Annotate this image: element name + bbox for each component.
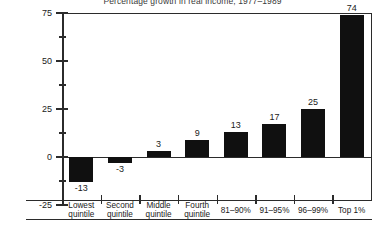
y-tick-75 [56,12,68,14]
bar [301,109,325,157]
y-tick-0 [56,156,68,158]
x-category-line: quintile [184,210,210,219]
x-category-label: Lowestquintile [62,201,101,219]
x-category-line: Second [106,201,134,210]
y-tick-label-0: 0 [0,152,52,162]
x-category-line: 91–95% [259,206,289,215]
y-tick-minor [59,132,66,133]
bar [224,132,248,157]
y-tick-25 [56,108,68,110]
x-category-label: Middlequintile [139,201,178,219]
bar [147,151,171,157]
bar-value-label: -3 [116,164,124,174]
x-category-line: quintile [107,210,133,219]
x-category-line: quintile [68,210,94,219]
bar [262,124,286,157]
y-tick-label--25: -25 [0,200,52,210]
x-category-line: Top 1% [338,206,365,215]
y-axis-spine [62,13,64,200]
x-category-line: Fourth [185,201,209,210]
bar [185,140,209,157]
x-category-line: 81–90% [221,206,251,215]
bar-value-label: 3 [156,139,161,149]
y-tick-50 [56,60,68,62]
x-category-line: quintile [146,210,172,219]
bar-value-label: 13 [231,120,241,130]
x-category-line: Middle [147,201,171,210]
y-tick-label-75: 75 [0,8,52,18]
x-category-label: 96–99% [294,201,333,219]
bar [69,157,93,182]
x-category-label: Fourthquintile [178,201,217,219]
plot-frame-right-lower [371,157,372,200]
y-tick-label-50: 50 [0,56,52,66]
bar-value-label: -13 [75,183,88,193]
x-category-label: Top 1% [332,201,371,219]
x-category-line: 96–99% [298,206,328,215]
bar-value-label: 17 [269,112,279,122]
y-tick-minor [59,36,66,37]
y-tick-minor [59,84,66,85]
y-tick-label-25: 25 [0,104,52,114]
chart-container: Percentage growth in real income, 1977–1… [0,0,385,235]
x-category-label: 91–95% [255,201,294,219]
y-tick-minor [59,180,66,181]
x-category-label: 81–90% [217,201,256,219]
bar-value-label: 25 [308,97,318,107]
bar-value-label: 74 [347,3,357,13]
plot-frame [62,13,372,157]
x-category-line: Lowest [68,201,94,210]
bar [340,15,364,157]
x-category-label: Secondquintile [101,201,140,219]
bar-value-label: 9 [195,128,200,138]
chart-title: Percentage growth in real income, 1977–1… [0,0,385,6]
bar [108,157,132,163]
